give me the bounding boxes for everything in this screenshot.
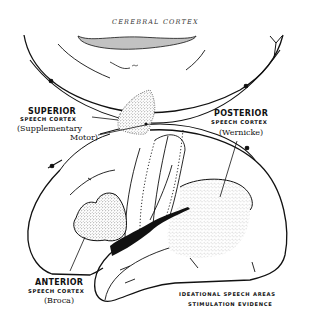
corpus-callosum xyxy=(78,36,196,49)
posterior-name: (Wernicke) xyxy=(219,129,263,137)
superior-speech-area xyxy=(118,90,155,134)
superior-heading: SUPERIOR xyxy=(28,108,76,116)
posterior-speech-area xyxy=(168,179,253,258)
brain-illustration xyxy=(0,0,309,323)
anterior-subheading: SPEECH CORTEX xyxy=(28,289,84,294)
superior-name-line1: (Supplementary xyxy=(17,125,82,133)
posterior-heading: POSTERIOR xyxy=(214,110,268,118)
anterior-heading: ANTERIOR xyxy=(35,279,83,287)
superior-name-line2: Motor) xyxy=(70,134,98,142)
diagram-title: CEREBRAL CORTEX xyxy=(112,19,199,26)
caption-line2: STIMULATION EVIDENCE xyxy=(188,302,273,307)
diagram-canvas: CEREBRAL CORTEX SUPERIOR SPEECH CORTEX (… xyxy=(0,0,309,323)
superior-subheading: SPEECH CORTEX xyxy=(20,117,76,122)
anterior-name: (Broca) xyxy=(44,297,74,305)
caption-line1: IDEATIONAL SPEECH AREAS xyxy=(179,292,276,297)
posterior-subheading: SPEECH CORTEX xyxy=(211,120,267,125)
anterior-speech-area xyxy=(74,193,127,241)
